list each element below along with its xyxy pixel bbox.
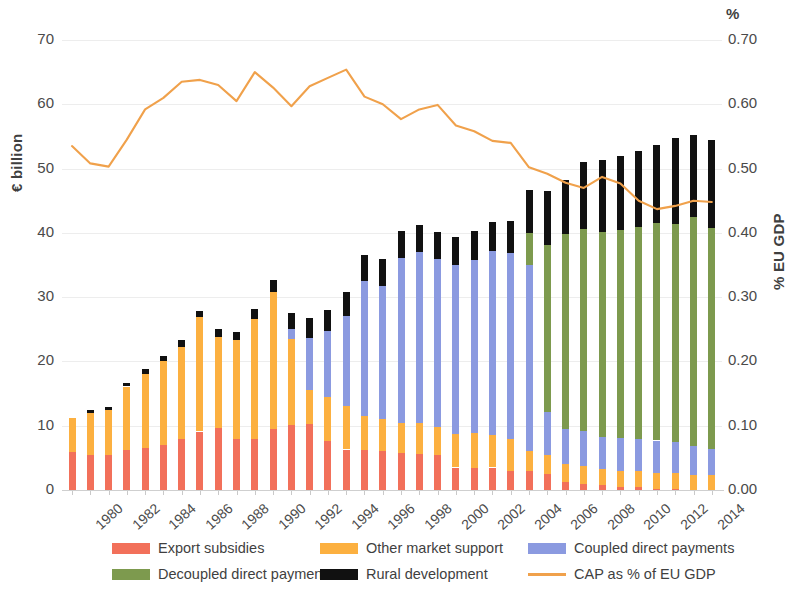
x-axis-tickmark	[584, 491, 585, 495]
bar-segment	[398, 453, 405, 490]
x-axis-tick-label: 1996	[384, 500, 418, 533]
x-axis-tickmark	[145, 491, 146, 495]
bar-segment	[653, 223, 660, 440]
bar-segment	[142, 448, 149, 490]
legend-item[interactable]: Other market support	[320, 540, 503, 556]
x-axis-tick-label: 2006	[567, 500, 601, 533]
bar-segment	[690, 475, 697, 490]
bar-segment	[507, 471, 514, 490]
bar-segment	[379, 451, 386, 490]
legend-color-swatch	[112, 543, 150, 554]
chart-legend: Export subsidiesOther market supportCoup…	[0, 536, 799, 598]
bar-segment	[306, 390, 313, 424]
bar-segment	[160, 445, 167, 490]
bar-segment	[105, 407, 112, 410]
bar-segment	[526, 190, 533, 232]
bar-segment	[324, 310, 331, 331]
x-axis-tick-label: 1982	[129, 500, 163, 533]
bar-segment	[635, 439, 642, 471]
x-axis-tickmark	[566, 491, 567, 495]
bar-segment	[507, 221, 514, 253]
y-axis-left-tick: 60	[20, 94, 54, 111]
legend-label: Other market support	[366, 540, 503, 556]
x-axis-tickmark	[328, 491, 329, 495]
legend-item[interactable]: Export subsidies	[112, 540, 264, 556]
x-axis-tickmark	[273, 491, 274, 495]
x-axis-tickmark	[694, 491, 695, 495]
bar-segment	[178, 340, 185, 346]
cap-share-line	[72, 70, 712, 210]
bar-segment	[196, 311, 203, 317]
x-axis-tickmark	[639, 491, 640, 495]
bar-segment	[233, 340, 240, 439]
gridline	[62, 361, 722, 362]
y-axis-left-tick: 40	[20, 223, 54, 240]
bar-segment	[87, 413, 94, 455]
y-axis-left-tick: 20	[20, 351, 54, 368]
legend-item[interactable]: CAP as % of EU GDP	[528, 566, 716, 582]
x-axis-tickmark	[127, 491, 128, 495]
legend-item[interactable]: Coupled direct payments	[528, 540, 734, 556]
bar-segment	[361, 281, 368, 416]
gridline	[62, 297, 722, 298]
bar-segment	[617, 156, 624, 230]
legend-color-swatch	[112, 569, 150, 580]
y-axis-left-tick: 0	[20, 480, 54, 497]
legend-item[interactable]: Decoupled direct payments	[112, 566, 334, 582]
x-axis-tickmark	[163, 491, 164, 495]
x-axis-tickmark	[547, 491, 548, 495]
x-axis-tick-label: 2004	[531, 500, 565, 533]
bar-segment	[653, 441, 660, 473]
x-axis-tick-label: 2000	[458, 500, 492, 533]
y-axis-left-tick: 10	[20, 416, 54, 433]
bar-segment	[599, 232, 606, 437]
bar-segment	[324, 397, 331, 441]
bar-segment	[379, 419, 386, 451]
y-axis-right-tick: 0.70	[728, 30, 778, 47]
x-axis-tickmark	[675, 491, 676, 495]
x-axis-tickmark	[492, 491, 493, 495]
x-axis-tickmark	[218, 491, 219, 495]
bar-segment	[526, 265, 533, 451]
bar-segment	[708, 228, 715, 449]
y-axis-left-tick: 70	[20, 30, 54, 47]
bar-segment	[562, 464, 569, 482]
x-axis-tickmark	[109, 491, 110, 495]
x-axis-tickmark	[72, 491, 73, 495]
bar-segment	[251, 309, 258, 319]
legend-color-swatch	[528, 543, 566, 554]
x-axis-tickmark	[364, 491, 365, 495]
bar-segment	[416, 423, 423, 454]
bar-segment	[123, 387, 130, 450]
x-axis-tick-label: 2010	[640, 500, 674, 533]
bar-segment	[288, 425, 295, 490]
bar-segment	[160, 361, 167, 445]
bar-segment	[123, 450, 130, 491]
legend-label: Coupled direct payments	[574, 540, 734, 556]
bar-segment	[105, 455, 112, 490]
legend-item[interactable]: Rural development	[320, 566, 488, 582]
gridline	[62, 233, 722, 234]
bar-segment	[398, 258, 405, 423]
y-axis-left-tick: 30	[20, 287, 54, 304]
x-axis-tick-label: 1984	[165, 500, 199, 533]
bar-segment	[215, 428, 222, 490]
y-axis-right-tick: 0.60	[728, 94, 778, 111]
x-axis-tick-label: 2008	[604, 500, 638, 533]
bar-segment	[562, 180, 569, 235]
x-axis-tickmark	[291, 491, 292, 495]
bar-segment	[653, 145, 660, 223]
bar-segment	[544, 245, 551, 412]
bar-segment	[489, 435, 496, 468]
bar-segment	[142, 374, 149, 448]
bar-segment	[471, 231, 478, 260]
bar-segment	[87, 410, 94, 413]
bar-segment	[507, 439, 514, 471]
bar-segment	[288, 339, 295, 425]
bar-segment	[288, 329, 295, 339]
bar-segment	[562, 482, 569, 490]
cap-expenditure-chart: 706050403020100 0.700.600.500.400.300.20…	[0, 0, 799, 602]
x-axis-tickmark	[511, 491, 512, 495]
legend-color-swatch	[320, 543, 358, 554]
y-axis-right-tick: 0.00	[728, 480, 778, 497]
